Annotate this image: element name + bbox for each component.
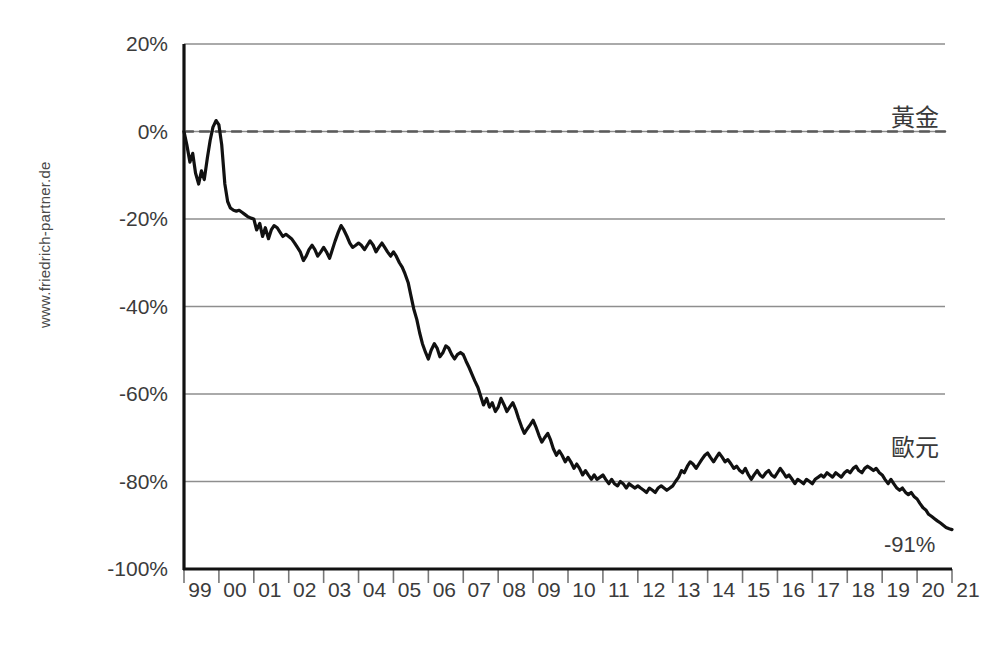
series-line (184, 121, 952, 530)
end-value-label: -91% (884, 532, 935, 558)
gridlines (184, 44, 945, 482)
series-label-gold: 黃金 (891, 98, 939, 133)
series-label-euro: 歐元 (891, 428, 939, 463)
plot-area (0, 0, 1008, 651)
x-axis-ticks (184, 569, 952, 583)
data-series (184, 121, 952, 530)
chart-container: www.friedrich-partner.de 20%0%-20%-40%-6… (0, 0, 1008, 651)
